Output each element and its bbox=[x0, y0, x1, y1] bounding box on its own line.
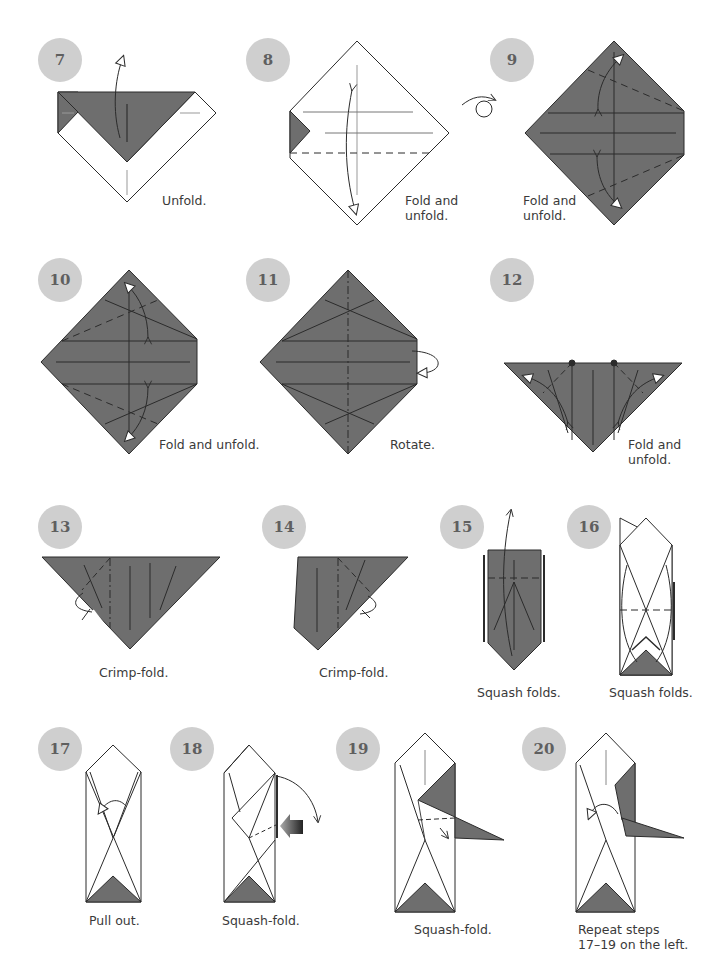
step-13-diagram bbox=[42, 557, 220, 649]
step-badge-15: 15 bbox=[440, 505, 484, 549]
step-caption-16: Squash folds. bbox=[609, 685, 693, 700]
step-19-diagram bbox=[395, 733, 504, 912]
step-caption-13: Crimp-fold. bbox=[99, 665, 168, 680]
step-11-diagram bbox=[260, 270, 438, 454]
step-caption-17: Pull out. bbox=[89, 913, 140, 928]
step-badge-9: 9 bbox=[490, 38, 534, 82]
step-caption-10: Fold and unfold. bbox=[159, 437, 260, 452]
step-14-diagram bbox=[294, 557, 408, 650]
step-caption-18: Squash-fold. bbox=[222, 913, 300, 928]
step-caption-7: Unfold. bbox=[162, 193, 207, 208]
step-caption-20: Repeat steps 17–19 on the left. bbox=[578, 922, 688, 952]
step-badge-18: 18 bbox=[170, 727, 214, 771]
step-caption-8: Fold and unfold. bbox=[405, 193, 458, 223]
step-badge-12: 12 bbox=[490, 258, 534, 302]
step-caption-12: Fold and unfold. bbox=[628, 437, 681, 467]
step-badge-16: 16 bbox=[567, 505, 611, 549]
step-15-diagram bbox=[484, 510, 544, 670]
step-badge-11: 11 bbox=[246, 258, 290, 302]
step-badge-13: 13 bbox=[38, 505, 82, 549]
step-badge-10: 10 bbox=[38, 258, 82, 302]
step-7-diagram bbox=[58, 60, 216, 202]
step-caption-11: Rotate. bbox=[390, 437, 435, 452]
step-badge-14: 14 bbox=[262, 505, 306, 549]
step-18-diagram bbox=[224, 745, 318, 902]
origami-diagrams bbox=[0, 0, 722, 978]
step-caption-14: Crimp-fold. bbox=[319, 665, 388, 680]
step-caption-15: Squash folds. bbox=[477, 685, 561, 700]
step-badge-8: 8 bbox=[246, 38, 290, 82]
step-badge-20: 20 bbox=[522, 727, 566, 771]
step-16-diagram bbox=[620, 518, 674, 675]
step-caption-9: Fold and unfold. bbox=[523, 193, 576, 223]
step-17-diagram bbox=[86, 745, 141, 902]
step-badge-17: 17 bbox=[38, 727, 82, 771]
step-badge-19: 19 bbox=[336, 727, 380, 771]
step-caption-19: Squash-fold. bbox=[414, 922, 492, 937]
step-20-diagram bbox=[576, 733, 684, 912]
step-8-diagram bbox=[290, 41, 495, 225]
step-badge-7: 7 bbox=[38, 38, 82, 82]
